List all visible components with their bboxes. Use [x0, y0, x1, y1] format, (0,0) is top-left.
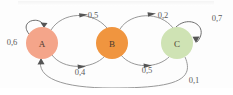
- edge-a-to-b-bottom-label: 0,4: [75, 67, 86, 77]
- edge-b-to-c-top: 0,2: [120, 10, 173, 29]
- edge-b-to-c-top-label: 0,2: [158, 10, 169, 20]
- edge-c-to-a-long-label: 0,1: [189, 75, 200, 85]
- edge-a-self-loop-label: 0,6: [7, 37, 18, 47]
- node-c-label: C: [174, 39, 180, 49]
- diagram-canvas: 0,6 0,5 0,4 0,2 0,5: [0, 0, 233, 95]
- state-diagram: 0,6 0,5 0,4 0,2 0,5: [0, 0, 233, 95]
- edge-c-to-a-long: 0,1: [38, 57, 200, 88]
- edge-c-to-a-long-arrowhead: [38, 58, 45, 65]
- edge-a-to-b-top-arrowhead: [79, 13, 88, 17]
- edge-b-to-c-bottom-label: 0,5: [142, 65, 153, 75]
- node-a-label: A: [39, 39, 46, 49]
- edge-a-to-b-top: 0,5: [51, 10, 107, 30]
- edge-a-to-b-bottom-path: [52, 55, 105, 66]
- node-a[interactable]: A: [26, 27, 58, 59]
- node-c[interactable]: C: [161, 27, 193, 59]
- edge-a-to-b-bottom: 0,4: [52, 55, 105, 77]
- edge-a-to-b-top-path: [51, 15, 107, 30]
- edge-a-to-b-top-label: 0,5: [88, 10, 99, 20]
- node-b-label: B: [109, 39, 115, 49]
- edge-c-to-a-long-path: [40, 57, 187, 88]
- edge-c-self-loop-label: 0,7: [212, 13, 223, 23]
- node-b[interactable]: B: [96, 27, 128, 59]
- edge-b-to-c-bottom: 0,5: [121, 55, 170, 75]
